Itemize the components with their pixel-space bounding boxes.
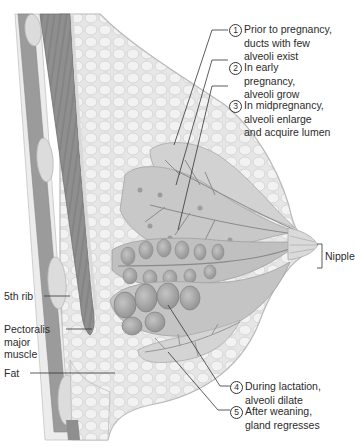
number-4-icon: 4 xyxy=(230,381,243,394)
nipple xyxy=(288,228,318,260)
callout-2: 2In early pregnancy, alveoli grow xyxy=(229,61,299,100)
number-1-icon: 1 xyxy=(229,24,242,37)
callout-4: 4During lactation, alveoli dilate xyxy=(230,380,321,407)
number-2-icon: 2 xyxy=(229,62,242,75)
number-3-icon: 3 xyxy=(229,100,242,113)
nipple-label: Nipple xyxy=(325,250,355,263)
callout-3: 3In midpregnancy, alveoli enlarge and ac… xyxy=(229,99,330,138)
number-5-icon: 5 xyxy=(230,406,243,419)
callout-1: 1Prior to pregnancy, ducts with few alve… xyxy=(229,23,332,62)
label-pectoralis-major: Pectoralis major muscle xyxy=(4,323,50,361)
nipple-bracket xyxy=(317,244,322,268)
label-fat: Fat xyxy=(4,367,19,380)
label-5th-rib: 5th rib xyxy=(4,290,33,303)
callout-5: 5After weaning, gland regresses xyxy=(230,405,320,432)
